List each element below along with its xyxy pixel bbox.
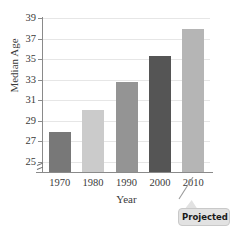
plot-area	[43, 18, 210, 172]
y-tick-label: 31	[14, 95, 36, 106]
y-tick-label: 39	[14, 13, 36, 24]
median-age-bar-chart: Median Age 2527293133353739 197019801990…	[0, 0, 235, 232]
projected-callout-label: Projected	[179, 209, 231, 227]
bar-1970	[49, 132, 71, 172]
y-tick-label: 33	[14, 75, 36, 86]
x-axis-line	[36, 172, 213, 173]
bar-1980	[82, 110, 104, 172]
y-tick-label: 37	[14, 34, 36, 45]
y-tick-label: 35	[14, 54, 36, 65]
bar-2000	[149, 56, 171, 172]
bar-1990	[116, 82, 138, 172]
bar-2010	[182, 29, 204, 172]
gridline	[43, 18, 210, 19]
y-tick-label: 29	[14, 116, 36, 127]
projected-callout: Projected	[178, 208, 230, 226]
y-tick-label: 25	[14, 157, 36, 168]
y-tick-label: 27	[14, 136, 36, 147]
callout-leader-line	[171, 177, 195, 203]
